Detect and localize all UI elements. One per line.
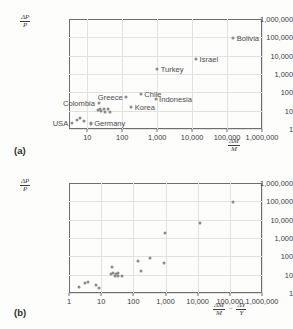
data-point — [110, 266, 113, 269]
y-tick-label: 100 — [228, 252, 293, 261]
data-point — [82, 119, 85, 122]
y-tick-label: 1,000 — [228, 234, 293, 243]
x-tick-label: 100 — [116, 133, 128, 142]
point-label-greece: Greece — [98, 93, 123, 102]
x-tick-mark — [122, 129, 123, 132]
x-tick-label: 1,000,000 — [246, 297, 279, 306]
data-point-indonesia — [154, 98, 157, 101]
data-point — [163, 262, 166, 265]
x-tick-mark — [262, 293, 263, 296]
data-point-bolivia — [232, 36, 235, 39]
gridline-vertical — [101, 183, 102, 293]
data-point — [149, 257, 152, 260]
point-label-korea: Korea — [135, 103, 155, 112]
data-point-chile — [139, 93, 142, 96]
x-tick-label: 1,000 — [156, 297, 175, 306]
data-point — [232, 200, 235, 203]
y-axis-label-a: ΔP P — [20, 14, 30, 30]
point-label-colombia: Colombia — [63, 99, 95, 108]
data-point-turkey — [156, 67, 159, 70]
x-tick-mark — [101, 293, 102, 296]
x-tick-label: 1 — [67, 297, 71, 306]
x-tick-mark — [69, 293, 70, 296]
x-axis-label-a: ΔM M — [228, 138, 240, 154]
point-label-turkey: Turkey — [161, 64, 184, 73]
x-tick-mark — [197, 293, 198, 296]
x-tick-label: 10 — [83, 133, 91, 142]
point-label-bolivia: Bolivia — [237, 33, 259, 42]
minus-operator: − — [227, 306, 235, 313]
gridline-vertical — [133, 183, 134, 293]
y-tick-label: 10 — [228, 270, 293, 279]
x-tick-label: 100 — [127, 297, 139, 306]
x-tick-mark — [229, 293, 230, 296]
x-tick-mark — [227, 129, 228, 132]
y-tick-label: 1,000,000 — [228, 179, 293, 188]
point-label-israel: Israel — [200, 55, 219, 64]
point-label-usa: USA — [53, 119, 69, 128]
y-tick-label: 1,000,000 — [228, 15, 293, 24]
panel-a: ΔP P 1,000,000100,00010,0001,000100101 1… — [0, 0, 293, 164]
x-tick-mark — [87, 129, 88, 132]
gridline-vertical — [157, 19, 158, 129]
x-tick-label: 10 — [97, 297, 105, 306]
data-point — [78, 286, 81, 289]
x-tick-label: 10,000 — [186, 297, 209, 306]
x-tick-mark — [133, 293, 134, 296]
data-point-usa — [70, 122, 73, 125]
data-point — [139, 270, 142, 273]
x-tick-mark — [192, 129, 193, 132]
gridline-vertical — [87, 19, 88, 129]
x-axis-label-b: ΔM M − ΔY Y — [213, 302, 246, 318]
y-tick-label: 10,000 — [228, 215, 293, 224]
gridline-vertical — [198, 183, 199, 293]
y-tick-label: 100,000 — [228, 197, 293, 206]
data-point — [113, 274, 116, 277]
data-point-israel — [195, 58, 198, 61]
data-point — [163, 231, 166, 234]
panel-tag-a: (a) — [14, 145, 26, 156]
data-point — [97, 286, 100, 289]
x-tick-mark — [157, 129, 158, 132]
point-label-indonesia: Indonesia — [159, 95, 192, 104]
data-point — [108, 110, 111, 113]
data-point — [117, 274, 120, 277]
data-point — [120, 274, 123, 277]
y-tick-label: 100 — [228, 88, 293, 97]
data-point — [86, 281, 89, 284]
gridline-vertical — [122, 19, 123, 129]
gridline-vertical — [166, 183, 167, 293]
x-tick-mark — [165, 293, 166, 296]
y-axis-label-b: ΔP P — [20, 178, 30, 194]
x-tick-label: 1,000,000 — [246, 133, 279, 142]
x-tick-label: 10,000 — [181, 133, 204, 142]
panel-b: ΔP P 1,000,000100,00010,0001,000100101 1… — [0, 165, 293, 329]
data-point — [104, 110, 107, 113]
x-tick-mark — [262, 129, 263, 132]
panel-tag-b: (b) — [14, 307, 26, 318]
data-point — [89, 123, 92, 126]
data-point-colombia — [97, 102, 100, 105]
gridline-vertical — [192, 19, 193, 129]
point-label-germany: Germany — [94, 119, 125, 128]
data-point-greece — [125, 96, 128, 99]
data-point — [199, 222, 202, 225]
y-tick-label: 10,000 — [228, 51, 293, 60]
y-tick-label: 10 — [228, 106, 293, 115]
y-tick-label: 1,000 — [228, 70, 293, 79]
data-point — [137, 260, 140, 263]
data-point-korea — [130, 106, 133, 109]
x-tick-label: 1,000 — [148, 133, 167, 142]
